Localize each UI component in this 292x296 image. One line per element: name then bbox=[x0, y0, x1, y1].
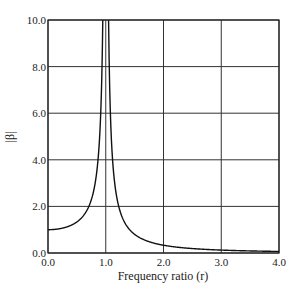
x-axis-label: Frequency ratio (r) bbox=[118, 269, 209, 283]
grid-lines bbox=[48, 20, 279, 253]
x-tick-labels: 0.01.02.03.04.0 bbox=[41, 256, 286, 268]
y-axis-label: |β| bbox=[3, 132, 17, 143]
y-tick-label: 0.0 bbox=[32, 247, 46, 259]
y-tick-label: 8.0 bbox=[32, 61, 46, 73]
y-tick-labels: 0.02.04.06.08.010.0 bbox=[27, 14, 47, 259]
y-tick-label: 10.0 bbox=[27, 14, 47, 26]
chart: 0.01.02.03.04.0 0.02.04.06.08.010.0 Freq… bbox=[0, 0, 292, 296]
x-tick-label: 4.0 bbox=[272, 256, 286, 268]
y-tick-label: 6.0 bbox=[32, 107, 46, 119]
y-tick-label: 4.0 bbox=[32, 154, 46, 166]
x-tick-label: 2.0 bbox=[157, 256, 171, 268]
x-tick-label: 1.0 bbox=[99, 256, 113, 268]
y-tick-label: 2.0 bbox=[32, 200, 46, 212]
x-tick-label: 3.0 bbox=[214, 256, 228, 268]
